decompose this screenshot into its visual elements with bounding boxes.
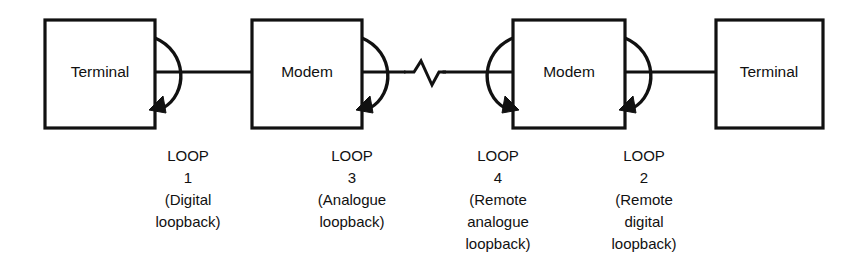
caption-number: 2 [640,169,648,186]
node-terminal-left: Terminal [45,20,155,128]
caption-loop-2: LOOP 2 (Remote digital loopback) [611,147,676,252]
caption-title: LOOP [623,147,665,164]
caption-desc-line-2: loopback) [319,213,384,230]
caption-desc-line-1: (Remote [469,191,527,208]
caption-desc-line-1: (Remote [615,191,673,208]
node-label: Modem [543,63,595,80]
node-label: Terminal [740,63,799,80]
caption-loop-4: LOOP 4 (Remote analogue loopback) [465,147,530,252]
loopback-diagram: Terminal Modem Modem Terminal [0,0,864,277]
caption-desc-line-1: (Analogue [318,191,386,208]
caption-desc-line-2: digital [624,213,663,230]
line-break-zigzag-icon [404,61,446,85]
node-modem-left: Modem [252,20,362,128]
caption-desc-line-3: loopback) [611,235,676,252]
caption-title: LOOP [477,147,519,164]
caption-number: 3 [348,169,356,186]
caption-title: LOOP [331,147,373,164]
diagram-canvas: Terminal Modem Modem Terminal [0,0,864,277]
caption-desc-line-3: loopback) [465,235,530,252]
node-label: Terminal [71,63,130,80]
caption-desc-line-2: analogue [467,213,529,230]
caption-number: 1 [184,169,192,186]
caption-loop-1: LOOP 1 (Digital loopback) [155,147,220,230]
caption-title: LOOP [167,147,209,164]
node-terminal-right: Terminal [716,20,823,128]
node-label: Modem [281,63,333,80]
caption-desc-line-1: (Digital [165,191,212,208]
caption-number: 4 [494,169,502,186]
caption-desc-line-2: loopback) [155,213,220,230]
node-modem-right: Modem [513,20,625,128]
caption-loop-3: LOOP 3 (Analogue loopback) [318,147,386,230]
